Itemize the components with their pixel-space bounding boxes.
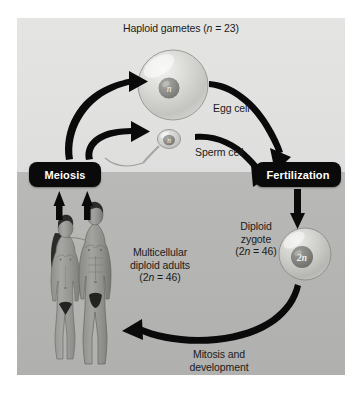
process-box-fertilization[interactable]: Fertilization bbox=[255, 162, 341, 187]
adults-line-2: diploid adults bbox=[130, 259, 190, 271]
label-multicellular-diploid-adults: Multicellular diploid adults (2n = 46) bbox=[113, 246, 207, 284]
haploid-gametes-suffix: = 23) bbox=[212, 22, 239, 34]
zygote-nucleus-label: 2n bbox=[296, 253, 307, 263]
adult-female bbox=[51, 215, 80, 359]
mitosis-line-1: Mitosis and bbox=[193, 348, 245, 360]
adults-line-1: Multicellular bbox=[133, 246, 187, 258]
arrow-meiosis-to-egg bbox=[65, 71, 148, 160]
label-sperm-cell: Sperm cell bbox=[195, 146, 244, 159]
fertilization-label: Fertilization bbox=[266, 169, 329, 181]
process-box-meiosis[interactable]: Meiosis bbox=[29, 162, 101, 187]
arrow-meiosis-to-sperm bbox=[85, 121, 150, 160]
adults-line-3-suffix: = 46) bbox=[154, 271, 181, 283]
arrow-zygote-to-adults bbox=[122, 284, 301, 344]
meiosis-label: Meiosis bbox=[44, 169, 85, 181]
label-haploid-gametes: Haploid gametes (n = 23) bbox=[123, 22, 239, 35]
sperm-nucleus-label: n bbox=[167, 136, 171, 145]
egg-nucleus-label: n bbox=[167, 84, 172, 94]
haploid-gametes-prefix: Haploid gametes ( bbox=[123, 22, 207, 34]
arrow-fertilization-to-zygote bbox=[290, 189, 305, 229]
zygote-line-1: Diploid bbox=[240, 220, 271, 232]
label-egg-cell: Egg cell bbox=[213, 102, 250, 115]
life-cycle-diagram: n n 2n bbox=[17, 18, 345, 375]
egg-cell: n bbox=[138, 49, 208, 120]
zygote-line-2: zygote bbox=[241, 233, 271, 245]
diagram-artwork: n n 2n bbox=[17, 18, 345, 375]
label-mitosis-and-development: Mitosis and development bbox=[171, 348, 267, 373]
mitosis-line-2: development bbox=[189, 361, 248, 373]
zygote-line-3-suffix: = 46) bbox=[250, 245, 277, 257]
label-diploid-zygote: Diploid zygote (2n = 46) bbox=[223, 220, 289, 258]
